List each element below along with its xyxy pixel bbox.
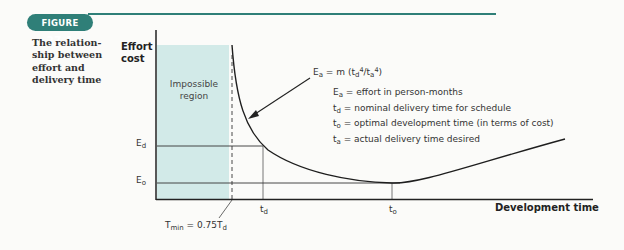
td-sub: d	[264, 208, 268, 216]
arrowhead-icon	[248, 110, 259, 119]
tmin-rest: = 0.75T	[184, 220, 223, 230]
legend-text: = optimal development time (in terms of …	[341, 118, 554, 128]
tmin-label: Tmin = 0.75Td	[165, 220, 227, 232]
to-sub: o	[393, 208, 397, 216]
to-tick-label: to	[389, 204, 397, 216]
legend-item: td = nominal delivery time for schedule	[333, 102, 554, 118]
legend-item: Ea = effort in person-months	[333, 86, 554, 102]
legend-item: to = optimal development time (in terms …	[333, 117, 554, 133]
legend-text: = actual delivery time desired	[341, 134, 480, 144]
definitions-legend: Ea = effort in person-months td = nomina…	[333, 86, 554, 148]
td-tick-label: td	[260, 204, 268, 216]
x-axis-label: Development time	[495, 202, 599, 213]
eo-tick-label: Eo	[136, 175, 146, 187]
tmin-leader	[219, 200, 232, 218]
equation-pointer	[252, 78, 310, 116]
legend-text: = nominal delivery time for schedule	[341, 103, 511, 113]
region-label-line: Impossible	[161, 78, 227, 90]
ed-sub: d	[142, 142, 146, 150]
eq-part: )	[379, 67, 383, 77]
region-label-line: region	[161, 90, 227, 102]
equation: Ea = m (td4/ta4)	[313, 66, 382, 79]
impossible-region	[157, 45, 229, 199]
eq-part: = m (t	[323, 67, 355, 77]
tmin-sub: min	[171, 224, 184, 232]
ed-tick-label: Ed	[136, 138, 146, 150]
impossible-region-label: Impossible region	[161, 78, 227, 102]
legend-item: ta = actual delivery time desired	[333, 133, 554, 149]
tmin-sub2: d	[223, 224, 227, 232]
legend-text: = effort in person-months	[343, 87, 463, 97]
eo-sub: o	[142, 179, 146, 187]
